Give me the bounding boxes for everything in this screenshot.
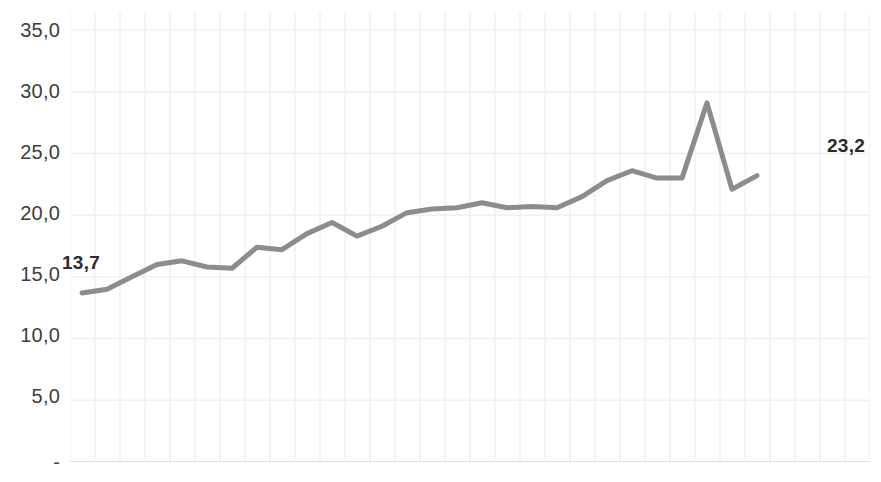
line-chart: 35,0 30,0 25,0 20,0 15,0 10,0 5,0 - 13,7… xyxy=(0,0,881,482)
series-line-layer xyxy=(70,12,870,462)
y-tick-label: 10,0 xyxy=(2,325,60,345)
y-tick-label: 20,0 xyxy=(2,203,60,223)
y-tick-label: 25,0 xyxy=(2,142,60,162)
y-tick-label: 30,0 xyxy=(2,81,60,101)
series-line xyxy=(82,103,757,293)
y-axis: 35,0 30,0 25,0 20,0 15,0 10,0 5,0 - xyxy=(0,0,60,482)
y-tick-label: 35,0 xyxy=(2,20,60,40)
y-tick-label: 5,0 xyxy=(2,386,60,406)
y-tick-label-zero: - xyxy=(2,452,60,472)
plot-area: 13,7 23,2 xyxy=(70,12,870,462)
y-tick-label: 15,0 xyxy=(2,264,60,284)
